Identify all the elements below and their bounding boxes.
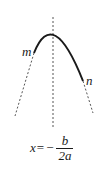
left-dashed-extension: [15, 53, 34, 116]
point-label-n: n: [86, 74, 93, 87]
formula-x: x: [30, 140, 36, 156]
axis-formula: x = − b 2a: [30, 134, 73, 163]
formula-fraction: b 2a: [56, 134, 73, 163]
point-label-m: m: [22, 45, 31, 58]
fraction-numerator: b: [60, 134, 71, 148]
fraction-denominator: 2a: [56, 149, 73, 163]
parabola-diagram: m n x = − b 2a: [0, 0, 106, 171]
parabola-segment-m-to-n: [34, 34, 83, 81]
formula-minus: −: [46, 140, 53, 156]
formula-equals: =: [37, 140, 44, 156]
